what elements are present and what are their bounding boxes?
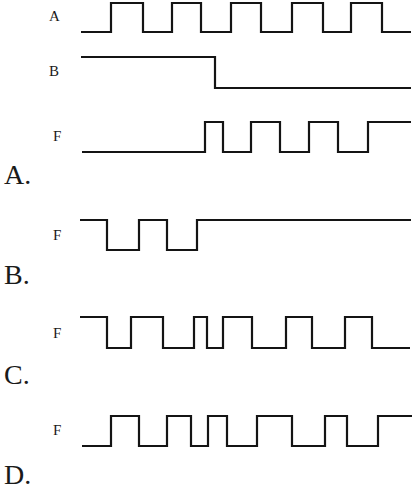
waveform-option-c — [80, 317, 410, 348]
input-label-a: A — [49, 9, 60, 24]
option-a-signal-label: F — [53, 129, 61, 144]
option-d-signal-label: F — [53, 423, 61, 438]
option-c-signal-label: F — [53, 326, 61, 341]
option-b-signal-label: F — [53, 228, 61, 243]
waveform-option-a — [82, 122, 411, 152]
waveform-input-b — [81, 57, 411, 88]
waveform-canvas — [0, 0, 419, 494]
input-label-b: B — [49, 64, 59, 79]
option-a-label: A. — [4, 161, 31, 189]
option-c-label: C. — [4, 361, 30, 389]
waveform-input-a — [81, 3, 411, 32]
option-b-label: B. — [4, 261, 30, 289]
waveform-option-d — [82, 416, 412, 446]
option-d-label: D. — [4, 461, 31, 489]
waveform-option-b — [80, 220, 411, 250]
